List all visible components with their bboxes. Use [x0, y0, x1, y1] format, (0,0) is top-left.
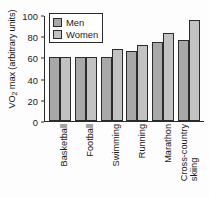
bar-men-basketball [49, 57, 60, 121]
y-axis-title-suffix: max (arbitrary units) [7, 10, 17, 92]
legend-swatch-men-icon [53, 18, 62, 27]
bar-women-running [137, 45, 148, 121]
x-category-label-line: skiing [189, 124, 199, 181]
x-category-label: Swimming [111, 124, 121, 166]
x-category: Swimming [100, 124, 122, 197]
bar-men-cross-country-skiing [178, 40, 189, 121]
y-tick-label: 20 [28, 95, 38, 106]
legend: Men Women [49, 13, 103, 43]
bar-women-marathon [163, 33, 174, 121]
x-category-label-line: Marathon [163, 124, 173, 163]
y-tick-label: 40 [28, 74, 38, 85]
x-category: Cross-countryskiing [178, 124, 200, 197]
y-axis-title-area: VO2 max (arbitrary units) [0, 0, 20, 128]
y-axis-title-prefix: VO [7, 95, 17, 108]
vo2-max-bar-chart: VO2 max (arbitrary units) 020406080100 M… [0, 0, 209, 197]
y-axis-title: VO2 max (arbitrary units) [7, 3, 17, 115]
x-category-label-line: Running [137, 124, 147, 158]
bar-women-cross-country-skiing [189, 20, 200, 121]
x-category-label-line: Swimming [111, 124, 121, 166]
x-category-label-line: Basketball [59, 124, 69, 166]
x-category-label: Marathon [163, 124, 173, 163]
y-tick-label: 60 [28, 53, 38, 64]
x-category-label: Cross-countryskiing [179, 124, 199, 181]
x-category: Basketball [48, 124, 70, 197]
bar-men-football [75, 57, 86, 121]
bar-women-basketball [60, 57, 71, 121]
y-axis-ticks: 020406080100 [20, 0, 41, 197]
x-category-label: Basketball [59, 124, 69, 166]
x-category-label: Football [85, 124, 95, 157]
bar-group [126, 16, 148, 121]
legend-label-men: Men [66, 17, 84, 28]
y-tick-label: 80 [28, 32, 38, 43]
y-tick-label: 0 [33, 117, 38, 128]
bar-group [152, 16, 174, 121]
x-category-label: Running [137, 124, 147, 158]
legend-item-men: Men [53, 16, 98, 28]
bar-group [178, 16, 200, 121]
x-category: Marathon [152, 124, 174, 197]
bar-men-running [126, 51, 137, 121]
x-category: Football [74, 124, 96, 197]
legend-swatch-women-icon [53, 30, 62, 39]
bar-men-marathon [152, 42, 163, 122]
x-category-label-line: Cross-country [179, 124, 189, 181]
x-category-label-line: Football [85, 124, 95, 157]
bar-women-swimming [112, 49, 123, 121]
bar-women-football [86, 57, 97, 121]
bar-group [101, 16, 123, 121]
y-tick-label: 100 [22, 11, 38, 22]
x-category: Running [126, 124, 148, 197]
legend-item-women: Women [53, 28, 98, 40]
x-axis-category-labels: BasketballFootballSwimmingRunningMaratho… [44, 124, 204, 197]
legend-label-women: Women [66, 29, 98, 40]
bar-men-swimming [101, 57, 112, 121]
y-axis-title-subscript: 2 [11, 92, 18, 96]
